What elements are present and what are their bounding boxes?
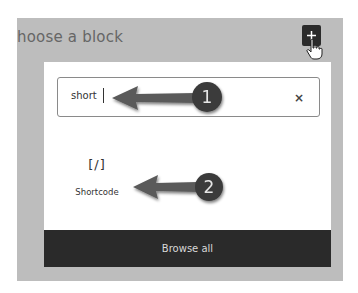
text-caret [103, 88, 104, 103]
shortcode-icon: [/] [66, 157, 128, 172]
hand-pointer-icon [305, 38, 323, 60]
block-result-shortcode[interactable]: [/] Shortcode [66, 154, 128, 214]
annotation-arrow-2: 2 [130, 170, 230, 206]
block-result-label: Shortcode [66, 187, 128, 197]
panel-title: hoose a block [17, 28, 123, 46]
annotation-arrow-1: 1 [108, 80, 228, 116]
browse-all-button[interactable]: Browse all [44, 230, 331, 267]
close-icon[interactable]: × [294, 91, 304, 105]
search-value: short [71, 90, 97, 101]
annotation-number-2: 2 [204, 177, 215, 197]
annotation-number-1: 1 [202, 87, 213, 107]
